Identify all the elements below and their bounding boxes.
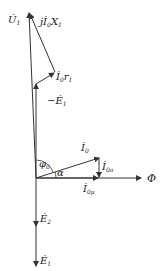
i0mu-label: İ0μ bbox=[82, 183, 95, 196]
u1-label: U̇1 bbox=[8, 14, 20, 26]
neg-e1-label: −Ė1 bbox=[47, 95, 67, 107]
phasor-diagram: U̇1 jİ0X1 İ0r1 −Ė1 φ0 İ0 İ0a α İ0μ Φ Ė2 … bbox=[0, 0, 167, 271]
flux-label: Φ bbox=[147, 172, 156, 185]
u1-phasor bbox=[29, 13, 36, 178]
e1-label: Ė1 bbox=[39, 255, 51, 267]
e2-label: Ė2 bbox=[39, 213, 51, 225]
alpha-label: α bbox=[57, 167, 64, 178]
phi0-label: φ0 bbox=[39, 158, 50, 170]
ji0x1-label: jİ0X1 bbox=[38, 16, 62, 28]
i0-label: İ0 bbox=[80, 142, 89, 154]
alpha-arc bbox=[55, 172, 56, 178]
i0r1-label: İ0r1 bbox=[55, 71, 72, 83]
i0a-label: İ0a bbox=[101, 161, 114, 173]
i0r1-phasor bbox=[36, 73, 54, 84]
